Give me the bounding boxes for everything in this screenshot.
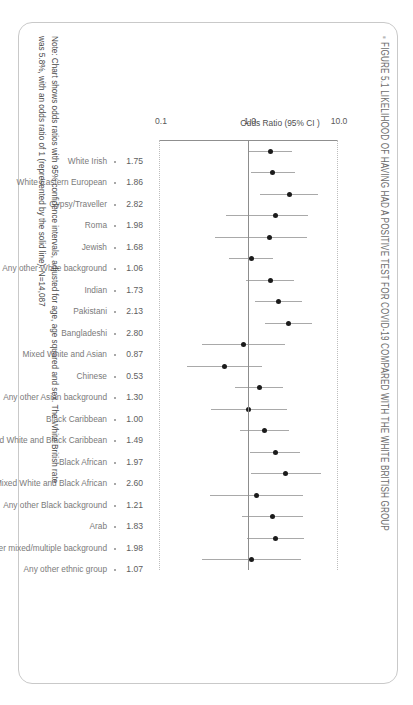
data-point xyxy=(249,256,254,261)
confidence-interval xyxy=(215,237,306,238)
category-row: Mixed White and Black African2.60 xyxy=(0,478,143,491)
category-marker-icon xyxy=(114,569,116,571)
category-row: Mixed White and Black Caribbean1.49 xyxy=(0,435,143,448)
category-row: Gypsy/Traveller2.82 xyxy=(0,199,143,212)
reference-line xyxy=(248,140,249,570)
category-value: 1.86 xyxy=(119,177,143,188)
category-label: White Irish xyxy=(68,156,107,167)
category-row: Black African1.97 xyxy=(0,457,143,470)
gridline-dotted xyxy=(159,140,160,570)
category-row: Chinese0.53 xyxy=(0,371,143,384)
data-point xyxy=(268,149,273,154)
category-marker-icon xyxy=(114,311,116,313)
category-value: 1.21 xyxy=(119,500,143,511)
category-value: 1.00 xyxy=(119,414,143,425)
category-value: 1.30 xyxy=(119,392,143,403)
category-value: 1.73 xyxy=(119,285,143,296)
data-point xyxy=(273,213,278,218)
data-series xyxy=(160,140,338,570)
category-label: Black African xyxy=(59,457,107,468)
category-value: 0.53 xyxy=(119,371,143,382)
category-label: Jewish xyxy=(82,242,107,253)
category-marker-icon xyxy=(114,505,116,507)
category-row: Jewish1.68 xyxy=(0,242,143,255)
category-marker-icon xyxy=(114,526,116,528)
category-value: 1.98 xyxy=(119,220,143,231)
category-marker-icon xyxy=(114,462,116,464)
category-marker-icon xyxy=(114,290,116,292)
category-label: Chinese xyxy=(77,371,107,382)
category-row: White Irish1.75 xyxy=(0,156,143,169)
category-row: Any other mixed/multiple background1.98 xyxy=(0,543,143,556)
category-marker-icon xyxy=(114,376,116,378)
category-value: 0.87 xyxy=(119,349,143,360)
category-marker-icon xyxy=(114,354,116,356)
data-point xyxy=(267,235,272,240)
data-point xyxy=(268,278,273,283)
category-value: 1.06 xyxy=(119,263,143,274)
forest-plot xyxy=(160,140,338,570)
data-point xyxy=(273,450,278,455)
category-row: Pakistani2.13 xyxy=(0,306,143,319)
category-label: Roma xyxy=(85,220,107,231)
category-value: 1.83 xyxy=(119,521,143,532)
data-point xyxy=(271,170,276,175)
category-value: 2.80 xyxy=(119,328,143,339)
category-value: 2.82 xyxy=(119,199,143,210)
category-value: 2.60 xyxy=(119,478,143,489)
category-value: 1.75 xyxy=(119,156,143,167)
category-row: Roma1.98 xyxy=(0,220,143,233)
axis-tick-label: 10.0 xyxy=(324,116,354,126)
category-row: Mixed White and Asian0.87 xyxy=(0,349,143,362)
category-row: Indian1.73 xyxy=(0,285,143,298)
note-line-1: Note: Chart shows odds ratios with 95% c… xyxy=(48,36,61,672)
category-marker-icon xyxy=(114,397,116,399)
category-label: White Eastern European xyxy=(17,177,107,188)
category-marker-icon xyxy=(114,204,116,206)
category-row: Any other White background1.06 xyxy=(0,263,143,276)
category-value: 1.98 xyxy=(119,543,143,554)
category-marker-icon xyxy=(114,440,116,442)
gridline-dotted xyxy=(337,140,338,570)
category-value: 1.49 xyxy=(119,435,143,446)
figure-stage: ▪FIGURE 5.1 LIKELIHOOD OF HAVING HAD A P… xyxy=(18,22,398,684)
data-point xyxy=(249,557,254,562)
data-point xyxy=(254,493,259,498)
data-point xyxy=(276,299,281,304)
category-label: Indian xyxy=(84,285,107,296)
data-point xyxy=(287,192,292,197)
confidence-interval xyxy=(226,215,308,216)
data-point xyxy=(286,321,291,326)
category-label: Arab xyxy=(89,521,107,532)
category-row: Bangladeshi2.80 xyxy=(0,328,143,341)
category-marker-icon xyxy=(114,483,116,485)
data-point xyxy=(273,536,278,541)
category-marker-icon xyxy=(114,268,116,270)
title-bullet-icon: ▪ xyxy=(378,36,390,39)
category-marker-icon xyxy=(114,182,116,184)
data-point xyxy=(270,514,275,519)
category-marker-icon xyxy=(114,225,116,227)
category-row: White Eastern European1.86 xyxy=(0,177,143,190)
category-value: 2.13 xyxy=(119,306,143,317)
category-label: Bangladeshi xyxy=(61,328,107,339)
figure-title-text: FIGURE 5.1 LIKELIHOOD OF HAVING HAD A PO… xyxy=(378,42,390,531)
category-marker-icon xyxy=(114,548,116,550)
category-row: Black Caribbean1.00 xyxy=(0,414,143,427)
data-point xyxy=(222,364,227,369)
category-marker-icon xyxy=(114,161,116,163)
axis-caption: Odds Ratio (95% CI ) xyxy=(235,118,325,128)
figure-page: ▪FIGURE 5.1 LIKELIHOOD OF HAVING HAD A P… xyxy=(0,0,413,705)
category-value: 1.07 xyxy=(119,564,143,575)
data-point xyxy=(257,385,262,390)
category-marker-icon xyxy=(114,333,116,335)
category-value: 1.68 xyxy=(119,242,143,253)
figure-title: ▪FIGURE 5.1 LIKELIHOOD OF HAVING HAD A P… xyxy=(378,36,390,676)
axis-tick-label: 0.1 xyxy=(146,116,176,126)
data-point xyxy=(283,471,288,476)
category-value: 1.97 xyxy=(119,457,143,468)
data-point xyxy=(241,342,246,347)
category-marker-icon xyxy=(114,247,116,249)
figure-note: Note: Chart shows odds ratios with 95% c… xyxy=(35,36,60,672)
category-row: Any other ethnic group1.07 xyxy=(0,564,143,577)
